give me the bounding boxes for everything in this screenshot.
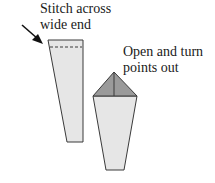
open-label-line-1: Open and turn [123, 44, 203, 60]
stitch-label-line-1: Stitch across [40, 1, 111, 17]
stitch-label: Stitch across wide end [40, 1, 111, 33]
open-label-line-2: points out [123, 60, 203, 76]
sewing-diagram: Stitch across wide end Open and turn poi… [0, 0, 215, 183]
stitched-strip [48, 40, 83, 142]
stitch-label-line-2: wide end [40, 17, 111, 33]
open-label: Open and turn points out [123, 44, 203, 76]
opened-strip [93, 72, 137, 170]
